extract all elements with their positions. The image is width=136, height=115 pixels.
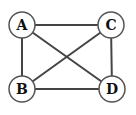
node-a-label: A [16,17,29,33]
graph-diagram: A C B D [0,0,136,115]
node-d-label: D [106,81,118,97]
node-b-label: B [16,81,28,97]
node-c: C [98,12,124,38]
node-b: B [9,76,35,102]
node-d: D [99,76,125,102]
edges [22,25,112,89]
node-a: A [9,12,35,38]
node-c-label: C [105,17,116,33]
